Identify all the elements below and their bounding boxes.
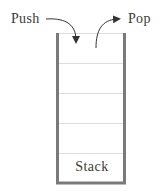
pop-label: Pop	[128, 12, 151, 26]
stack-dividers	[58, 64, 124, 154]
push-label: Push	[11, 12, 39, 26]
stack-label: Stack	[60, 160, 124, 174]
push-arrow-icon	[46, 19, 76, 40]
